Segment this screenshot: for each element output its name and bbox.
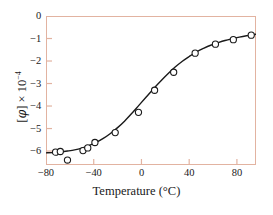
y-axis-title: [φ] × 10−4 [15,27,29,167]
figure-container: 0−1−2−3−4−5−6 −80−4004080 Temperature (°… [0,0,273,215]
data-point-marker [135,109,141,115]
y-axis-exponent: −4 [14,71,23,80]
x-tick-marks [46,159,237,165]
data-point-marker [112,129,118,135]
data-point-marker [248,32,254,38]
data-point-marker [171,69,177,75]
data-point-marker [212,41,218,47]
y-axis-base: 10 [15,80,29,93]
x-tick-label: 40 [166,168,212,179]
data-point-marker [57,148,63,154]
x-tick-label: 0 [118,168,164,179]
plot-area [46,16,256,165]
data-point-markers [52,32,254,163]
y-axis-phi-symbol: φ [14,110,29,119]
y-axis-bracket-close: ] [15,106,29,110]
y-axis-times-sign: × [15,95,29,102]
x-tick-label: −80 [23,168,69,179]
data-point-marker [92,139,98,145]
data-point-marker [64,157,70,163]
data-point-marker [192,50,198,56]
data-point-marker [151,87,157,93]
x-tick-label: −40 [71,168,117,179]
x-tick-label: 80 [214,168,260,179]
y-tick-marks [46,16,52,151]
y-tick-label: 0 [0,11,41,22]
y-axis-bracket-open: [ [15,119,29,123]
data-point-marker [230,37,236,43]
data-point-marker [85,145,91,151]
fit-curve [46,34,256,153]
x-axis-title: Temperature (°C) [0,185,273,198]
